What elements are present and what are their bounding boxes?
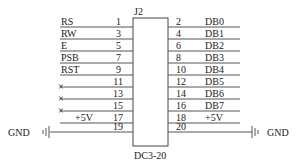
connector-designator: J2 [134, 6, 143, 17]
schematic-canvas: J2 DC3-20 RS RW E PSB RST +5V 1 3 5 7 9 … [0, 0, 300, 166]
ground-left-label: GND [8, 127, 30, 138]
left-pin-rows: RS RW E PSB RST +5V 1 3 5 7 9 11 13 15 1… [50, 16, 133, 132]
pin-20-number: 20 [176, 121, 186, 132]
ground-icon [252, 126, 258, 138]
pin-7-number: 7 [116, 52, 121, 63]
pin-4-signal: DB1 [205, 28, 224, 39]
pin-1-number: 1 [116, 16, 121, 27]
pin-10-signal: DB4 [205, 64, 224, 75]
pin-19-number: 19 [113, 121, 123, 132]
connector-part-number: DC3-20 [134, 150, 166, 161]
no-connect-icon: × [58, 105, 64, 116]
pin-2-number: 2 [176, 16, 181, 27]
pin-9-signal: RST [61, 64, 79, 75]
pin-7-signal: PSB [61, 52, 79, 63]
pin-16-signal: DB7 [205, 100, 224, 111]
pin-8-number: 8 [176, 52, 181, 63]
no-connect-icon: × [58, 93, 64, 104]
pin-2-signal: DB0 [205, 16, 224, 27]
pin-3-number: 3 [116, 28, 121, 39]
pin-6-signal: DB2 [205, 40, 224, 51]
pin-10-number: 10 [176, 64, 186, 75]
no-connect-icon: × [58, 81, 64, 92]
ground-symbol-right: GND [252, 126, 289, 138]
pin-6-number: 6 [176, 40, 181, 51]
pin-13-number: 13 [113, 88, 123, 99]
pin-16-number: 16 [176, 100, 186, 111]
pin-5-number: 5 [116, 40, 121, 51]
pin-4-number: 4 [176, 28, 181, 39]
pin-18-signal: +5V [205, 112, 224, 123]
ground-icon [43, 126, 49, 138]
connector-body [133, 18, 168, 146]
pin-1-signal: RS [61, 16, 73, 27]
ground-right-label: GND [267, 127, 289, 138]
pin-17-signal: +5V [75, 112, 94, 123]
pin-5-signal: E [61, 40, 67, 51]
pin-8-signal: DB3 [205, 52, 224, 63]
pin-3-signal: RW [61, 28, 77, 39]
pin-15-number: 15 [113, 100, 123, 111]
pin-14-number: 14 [176, 88, 186, 99]
ground-symbol-left: GND [8, 126, 49, 138]
right-pin-rows: 2 4 6 8 10 12 14 16 18 20 DB0 DB1 DB2 DB… [168, 16, 252, 132]
pin-9-number: 9 [116, 64, 121, 75]
pin-14-signal: DB6 [205, 88, 224, 99]
pin-11-number: 11 [113, 76, 123, 87]
pin-12-number: 12 [176, 76, 186, 87]
pin-12-signal: DB5 [205, 76, 224, 87]
